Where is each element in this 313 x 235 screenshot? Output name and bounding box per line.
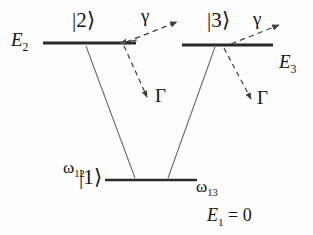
energy-symbol-E2: E <box>11 29 23 50</box>
energy-subscript-E3: 3 <box>291 63 297 76</box>
energy-level-diagram: |2⟩ |3⟩ |1⟩ E2 E3 E1 = 0 γ γ Γ Γ ω12 ω13… <box>0 0 313 235</box>
omega12-subscript: 12 <box>74 168 85 179</box>
Gamma-label-right: Γ <box>257 88 268 107</box>
energy-subscript-E2: 2 <box>23 41 29 54</box>
energy-symbol-E3: E <box>279 51 291 72</box>
decay-arrow-Gamma-left <box>124 46 147 97</box>
omega13-subscript: 13 <box>207 187 218 198</box>
ket-label-2: |2⟩ <box>72 10 95 31</box>
transition-label-omega13: ω13 <box>196 178 313 195</box>
energy-symbol-E1: E <box>207 205 218 225</box>
transition-label-omega12: ω12 <box>63 159 313 176</box>
energy-label-E3: E3 <box>279 52 313 71</box>
decay-arrow-Gamma-right <box>224 48 251 99</box>
Gamma-label-left: Γ <box>155 86 166 105</box>
gamma-label-left: γ <box>141 6 149 25</box>
omega13-symbol: ω <box>196 177 207 196</box>
energy-label-E2: E2 <box>11 30 313 49</box>
gamma-label-right: γ <box>253 9 261 28</box>
ket-label-3: |3⟩ <box>207 10 230 31</box>
energy-label-E1: E1 = 0 <box>207 206 313 224</box>
energy-value-E1: = 0 <box>228 205 252 225</box>
omega12-symbol: ω <box>63 158 74 177</box>
